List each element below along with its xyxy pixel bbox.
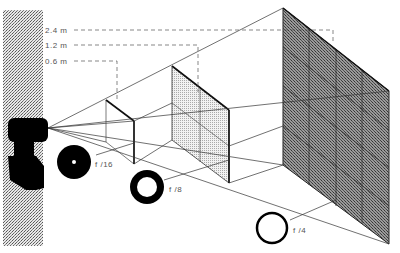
focus-plane-far: [283, 8, 389, 244]
distance-label-0-6m: 0.6 m: [45, 57, 68, 66]
aperture-f4-icon: [257, 213, 287, 243]
focus-plane-mid: [172, 66, 229, 183]
distance-label-2-4m: 2.4 m: [45, 26, 68, 35]
aperture-f16-icon: [57, 145, 91, 179]
aperture-label-f16: f /16: [95, 160, 113, 169]
aperture-label-f4: f /4: [293, 226, 306, 235]
focus-plane-near: [106, 100, 134, 164]
depth-of-field-diagram: 2.4 m 1.2 m 0.6 m f /16 f /8 f /4: [0, 0, 400, 253]
aperture-f8-icon: [130, 170, 164, 204]
distance-label-1-2m: 1.2 m: [45, 41, 68, 50]
aperture-label-f8: f /8: [169, 185, 182, 194]
